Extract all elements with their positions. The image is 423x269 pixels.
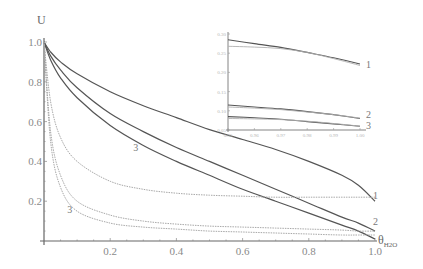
inset-plot: 0.950.960.970.980.991.000.050.100.150.20…: [217, 32, 371, 138]
inset-x-tick-label: 0.95: [224, 133, 233, 138]
inset-y-tick-label: 0.10: [217, 109, 226, 114]
series-line-1: [44, 42, 375, 201]
y-tick-label: 1.0: [28, 36, 42, 48]
inset-series-line-5: [228, 117, 360, 127]
inset-x-tick-label: 0.96: [250, 133, 259, 138]
curve-label: 3: [133, 142, 138, 153]
curve-label: 2: [373, 216, 378, 227]
inset-y-tick-label: 0.15: [217, 90, 226, 95]
y-tick-label: 0.6: [28, 116, 42, 128]
inset-y-tick-label: 0.25: [217, 51, 226, 56]
y-axis-label: U: [37, 13, 46, 27]
series-line-6: [44, 42, 375, 235]
inset-y-tick-label: 0.30: [217, 32, 226, 37]
y-tick-label: 0.8: [28, 76, 42, 88]
x-tick-label: 0.8: [302, 245, 316, 257]
inset-y-tick-label: 0.20: [217, 70, 226, 75]
inset-series-line-3: [228, 105, 360, 119]
main-plot: 0.20.40.60.81.00.20.40.60.81.01233: [28, 36, 382, 257]
inset-x-tick-label: 0.99: [329, 133, 338, 138]
x-axis-label: θH2O: [378, 233, 397, 249]
y-tick-label: 0.2: [28, 195, 42, 207]
y-tick-label: 0.4: [28, 155, 42, 167]
x-axis-label-subscript: H2O: [384, 241, 398, 249]
inset-series-line-4: [228, 107, 360, 118]
series-line-5: [44, 42, 375, 231]
inset-curve-label: 3: [366, 120, 371, 131]
x-tick-label: 0.4: [170, 245, 184, 257]
series-line-2: [44, 42, 375, 231]
series-line-3: [44, 42, 375, 239]
chart-canvas: 0.20.40.60.81.00.20.40.60.81.01233 0.950…: [0, 0, 423, 269]
curve-label: 3: [67, 204, 72, 215]
inset-series-line-6: [228, 119, 360, 127]
inset-y-tick-label: 0.05: [217, 128, 226, 133]
curve-label: 1: [373, 190, 378, 201]
inset-x-tick-label: 1.00: [356, 133, 365, 138]
x-tick-label: 0.2: [103, 245, 117, 257]
inset-x-tick-label: 0.97: [276, 133, 285, 138]
inset-curve-label: 1: [366, 59, 371, 70]
x-tick-label: 0.6: [236, 245, 250, 257]
inset-curve-label: 2: [366, 109, 371, 120]
series-line-4: [44, 42, 375, 197]
inset-x-tick-label: 0.98: [303, 133, 312, 138]
inset-series-line-2: [228, 46, 360, 65]
